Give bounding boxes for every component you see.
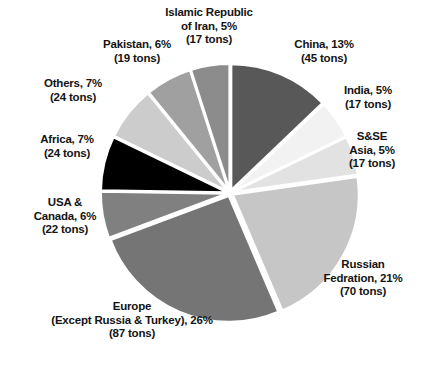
slice-label-china: China, 13% (45 tons)	[268, 38, 380, 65]
slice-label-s-and-se-asia: S&SE Asia, 5% (17 tons)	[322, 130, 422, 171]
slice-label-india: India, 5% (17 tons)	[316, 84, 420, 111]
slice-label-others: Others, 7% (24 tons)	[14, 77, 132, 104]
slice-label-pakistan: Pakistan, 6% (19 tons)	[78, 38, 196, 65]
slice-label-africa: Africa, 7% (24 tons)	[8, 133, 126, 160]
slice-label-usa-and-canada: USA & Canada, 6% (22 tons)	[6, 196, 124, 237]
slice-label-europe: Europe (Except Russia & Turkey), 26% (87…	[16, 300, 248, 341]
slice-label-russian-federation: Russian Fedration, 21% (70 tons)	[300, 258, 426, 299]
pie-chart: Islamic Republic of Iran, 5% (17 tons) C…	[0, 0, 432, 365]
